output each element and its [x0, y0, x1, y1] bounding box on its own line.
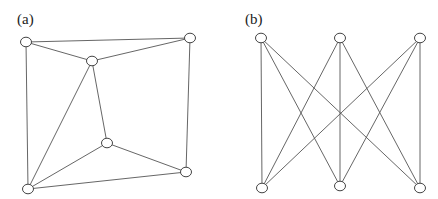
node-B2 [335, 181, 346, 191]
edge-A-C [26, 42, 92, 61]
node-B [185, 33, 196, 43]
node-C [87, 56, 98, 66]
node-A [21, 37, 32, 47]
graph-figure: (a) (b) [0, 0, 438, 199]
panel-a-edges [26, 38, 190, 189]
node-F [23, 184, 34, 194]
edge-C-D [92, 61, 107, 143]
node-B1 [257, 183, 268, 193]
node-T1 [256, 33, 267, 43]
edge-T1-B1 [261, 38, 262, 188]
node-E [181, 167, 192, 177]
node-B3 [415, 183, 426, 193]
panel-b: (b) [245, 11, 426, 193]
edge-T2-B1 [262, 38, 340, 188]
edge-C-B [92, 38, 190, 61]
edge-A-F [26, 42, 28, 189]
panel-a-label: (a) [17, 11, 34, 28]
panel-a: (a) [17, 11, 196, 194]
node-T3 [415, 33, 426, 43]
edge-C-F [28, 61, 92, 189]
node-D [102, 138, 113, 148]
edge-F-E [28, 172, 186, 189]
edge-B-E [186, 38, 190, 172]
panel-b-edges [261, 38, 420, 188]
edge-A-B [26, 38, 190, 42]
panel-b-label: (b) [245, 11, 263, 28]
node-T2 [335, 33, 346, 43]
edge-D-E [107, 143, 186, 172]
